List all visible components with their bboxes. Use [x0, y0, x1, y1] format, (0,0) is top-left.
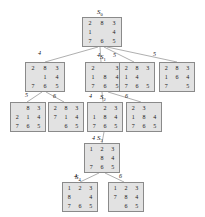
- puzzle-tile: 3: [131, 184, 142, 193]
- tree-edge: [107, 47, 177, 62]
- puzzle-tile: 4: [107, 154, 118, 163]
- state-label-s0: S0: [97, 8, 103, 17]
- puzzle-tile: 3: [33, 104, 44, 113]
- puzzle-tile: 6: [121, 201, 132, 210]
- puzzle-tile: 1: [121, 73, 132, 82]
- puzzle-grid: 28316475: [161, 64, 193, 90]
- puzzle-tile: 8: [97, 154, 108, 163]
- puzzle-tile: 5: [107, 162, 118, 171]
- puzzle-tile: 2: [121, 64, 132, 73]
- edge-cost-label: 6: [53, 93, 56, 99]
- puzzle-state-node[interactable]: 23184765: [87, 102, 123, 132]
- puzzle-state-node[interactable]: 28371465: [48, 102, 84, 132]
- puzzle-state-node[interactable]: 28314765: [82, 17, 122, 47]
- puzzle-grid: 12378465: [110, 184, 142, 210]
- puzzle-tile: 6: [100, 121, 111, 130]
- edge-cost-label: 4: [92, 135, 95, 141]
- puzzle-tile: 2: [12, 113, 23, 122]
- puzzle-tile: 8: [39, 64, 51, 73]
- puzzle-tile: 7: [64, 201, 75, 210]
- puzzle-tile: 1: [64, 184, 75, 193]
- puzzle-tile: 5: [33, 121, 44, 130]
- state-label-s3: S3: [97, 134, 103, 143]
- puzzle-tile: 4: [131, 193, 142, 202]
- edge-cost-label: 4: [89, 93, 92, 99]
- puzzle-grid: 28371465: [50, 104, 82, 130]
- puzzle-tile: 1: [86, 145, 97, 154]
- puzzle-blank-cell: [86, 154, 97, 163]
- state-label-subscript: 2: [104, 97, 106, 102]
- puzzle-tile: 2: [121, 184, 132, 193]
- edge-cost-label: 5: [113, 52, 116, 58]
- puzzle-tile: 8: [64, 193, 75, 202]
- puzzle-tile: 3: [51, 64, 63, 73]
- puzzle-tile: 3: [107, 145, 118, 154]
- puzzle-tile: 1: [23, 113, 34, 122]
- puzzle-state-node[interactable]: 28316475: [159, 62, 195, 92]
- edge-cost-label: 6: [125, 93, 128, 99]
- state-label-subscript: 1: [104, 57, 106, 62]
- puzzle-tile: 6: [75, 201, 86, 210]
- puzzle-blank-cell: [172, 81, 183, 90]
- puzzle-tile: 7: [50, 113, 61, 122]
- puzzle-tile: 7: [12, 121, 23, 130]
- edge-cost-label: 5: [153, 51, 156, 57]
- puzzle-grid: 12384765: [64, 184, 96, 210]
- state-label-subscript: 0: [101, 12, 103, 17]
- puzzle-tile: 1: [84, 28, 96, 37]
- puzzle-tile: 7: [110, 193, 121, 202]
- puzzle-blank-cell: [149, 104, 160, 113]
- puzzle-blank-cell: [96, 28, 108, 37]
- state-label-subscript: 4: [79, 177, 81, 182]
- tree-edge: [80, 173, 99, 182]
- puzzle-state-node[interactable]: 23184765: [126, 102, 162, 132]
- puzzle-state-node[interactable]: 12384765: [62, 182, 98, 212]
- puzzle-tile: 6: [39, 81, 51, 90]
- puzzle-tile: 4: [110, 113, 121, 122]
- puzzle-tile: 4: [33, 113, 44, 122]
- puzzle-tile: 4: [182, 73, 193, 82]
- puzzle-tile: 2: [100, 104, 111, 113]
- puzzle-tile: 4: [51, 73, 63, 82]
- puzzle-grid: 23184765: [128, 104, 160, 130]
- puzzle-state-node[interactable]: 28314765: [25, 62, 65, 92]
- puzzle-tile: 8: [121, 193, 132, 202]
- puzzle-tile: 5: [110, 121, 121, 130]
- state-label-s2: S2: [100, 93, 106, 102]
- puzzle-state-node[interactable]: 28314765: [119, 62, 155, 92]
- puzzle-tile: 6: [99, 81, 111, 90]
- puzzle-tile: 2: [128, 104, 139, 113]
- puzzle-tile: 7: [86, 162, 97, 171]
- puzzle-tile: 6: [139, 121, 150, 130]
- puzzle-tile: 2: [50, 104, 61, 113]
- edge-cost-label: 6: [119, 173, 122, 179]
- puzzle-tile: 2: [161, 64, 172, 73]
- state-label-subscript: 3: [101, 138, 103, 143]
- puzzle-tile: 6: [96, 36, 108, 45]
- puzzle-tile: 3: [139, 104, 150, 113]
- edge-cost-label: 4: [74, 173, 77, 179]
- puzzle-tile: 2: [97, 145, 108, 154]
- puzzle-tile: 5: [131, 201, 142, 210]
- puzzle-blank-cell: [75, 193, 86, 202]
- puzzle-grid: 23184765: [87, 64, 123, 90]
- puzzle-tile: 8: [23, 104, 34, 113]
- puzzle-tile: 2: [27, 64, 39, 73]
- state-label-s1: S1: [100, 53, 106, 62]
- puzzle-blank-cell: [142, 73, 153, 82]
- puzzle-tile: 8: [99, 73, 111, 82]
- puzzle-tile: 5: [51, 81, 63, 90]
- tree-edge: [45, 47, 98, 62]
- puzzle-tile: 1: [161, 73, 172, 82]
- puzzle-tile: 3: [182, 64, 193, 73]
- puzzle-grid: 28314765: [121, 64, 153, 90]
- puzzle-tile: 7: [121, 81, 132, 90]
- puzzle-state-node[interactable]: 12384765: [84, 143, 120, 173]
- puzzle-tile: 1: [39, 73, 51, 82]
- puzzle-state-node[interactable]: 83214765: [10, 102, 46, 132]
- puzzle-grid: 28314765: [27, 64, 63, 90]
- puzzle-state-node[interactable]: 12378465: [108, 182, 144, 212]
- puzzle-tile: 7: [89, 121, 100, 130]
- search-tree-diagram: 2831476528314765231847652831476528316475…: [0, 0, 205, 217]
- puzzle-grid: 23184765: [89, 104, 121, 130]
